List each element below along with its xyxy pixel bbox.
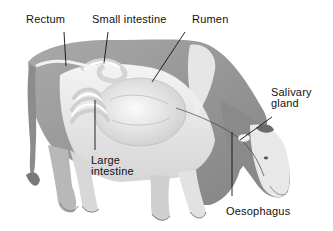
label-salivary-gland-line2: gland — [271, 98, 312, 109]
label-rectum: Rectum — [26, 14, 65, 25]
label-oesophagus: Oesophagus — [226, 206, 290, 217]
label-salivary-gland: Salivary gland — [271, 87, 312, 109]
label-small-intestine: Small intestine — [92, 14, 167, 25]
cow-digestive-diagram: Rectum Small intestine Rumen Salivary gl… — [0, 0, 333, 231]
cow-illustration — [0, 0, 333, 231]
label-large-intestine-line2: intestine — [91, 166, 134, 177]
label-large-intestine: Large intestine — [91, 155, 134, 177]
label-rumen: Rumen — [192, 14, 228, 25]
